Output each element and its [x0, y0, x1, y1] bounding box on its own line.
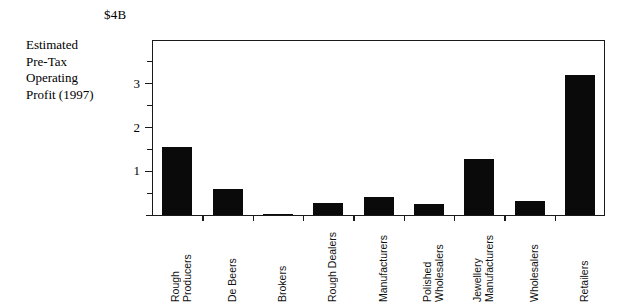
x-axis-category-label-line: Wholesalers: [528, 222, 540, 302]
x-axis-category-label: De Beers: [226, 222, 238, 302]
bar-chart-figure: $4B Estimated Pre-Tax Operating Profit (…: [0, 0, 633, 306]
bar: [515, 201, 545, 215]
bar: [414, 204, 444, 215]
x-axis-category-label-line: Wholesalers: [433, 222, 445, 302]
x-axis-category-label: JewelleryManufacturers: [471, 222, 495, 302]
x-axis-category-label: Wholesalers: [528, 222, 540, 302]
x-axis-category-label: Manufacturers: [377, 222, 389, 302]
x-axis-category-label-line: Brokers: [276, 222, 288, 302]
x-axis-category-label-line: Jewellery: [471, 222, 483, 302]
x-axis-category-label-line: Manufacturers: [483, 222, 495, 302]
bar: [213, 189, 243, 215]
x-axis-category-label-line: Manufacturers: [377, 222, 389, 302]
x-axis-category-label-line: De Beers: [226, 222, 238, 302]
x-axis-category-label: RoughProducers: [169, 222, 193, 302]
bar: [464, 159, 494, 215]
x-axis-category-label-line: Rough: [169, 222, 181, 302]
x-axis-category-label: PolishedWholesalers: [421, 222, 445, 302]
x-axis-category-label-line: Polished: [421, 222, 433, 302]
x-axis-category-label: Brokers: [276, 222, 288, 302]
x-axis-category-label: Rough Dealers: [326, 222, 338, 302]
x-axis-category-label-line: Retailers: [578, 222, 590, 302]
bar: [263, 214, 293, 215]
x-axis-category-label: Retailers: [578, 222, 590, 302]
bar: [565, 75, 595, 215]
x-axis-category-label-line: Rough Dealers: [326, 222, 338, 302]
bar: [364, 197, 394, 215]
bar: [313, 203, 343, 215]
bar: [162, 147, 192, 215]
x-axis-category-label-line: Producers: [181, 222, 193, 302]
